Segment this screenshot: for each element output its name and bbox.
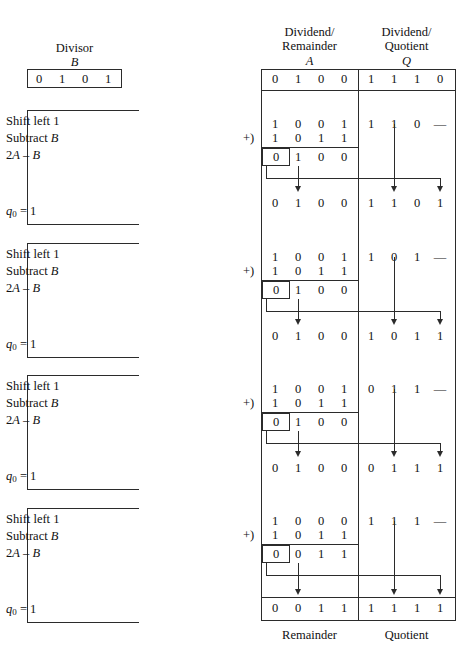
sum-a-bit: 1: [291, 150, 305, 164]
shifted-a-bit: 1: [268, 382, 282, 396]
step-line: 2A – B: [6, 546, 40, 560]
divisor-register: 0 1 0 1: [27, 69, 122, 88]
sum-a-bit: 0: [269, 547, 283, 561]
step-flag-subscript: 0: [12, 209, 17, 219]
step-flag: q0 = 1: [6, 337, 36, 354]
column-divider: [358, 69, 359, 621]
shifted-q-bit: 1: [410, 382, 424, 396]
remainder-footer: Remainder: [261, 628, 358, 642]
divisor-bit: 0: [33, 71, 45, 87]
sum-a-bit: 0: [314, 150, 328, 164]
divisor-bit: 1: [56, 71, 68, 87]
shifted-q-bit: —: [433, 382, 447, 396]
a-shift-arrow-line: [298, 166, 299, 187]
initial-a-bit: 0: [337, 72, 351, 86]
column-q-symbol: Q: [358, 54, 455, 68]
addend-bit: 1: [314, 528, 328, 542]
carry-arrow-head: [437, 451, 443, 457]
shifted-a-bit: 1: [268, 514, 282, 528]
final-remainder-bit: 1: [314, 601, 328, 615]
sum-a-bit: 1: [337, 547, 351, 561]
shifted-q-bit: —: [433, 117, 447, 131]
step-flag-value: 1: [30, 469, 36, 483]
shifted-a-bit: 0: [314, 382, 328, 396]
step-line: 2A – B: [6, 148, 40, 162]
carry-connector-vertical: [266, 166, 267, 178]
column-a-header-line2: Remainder: [261, 39, 358, 53]
initial-q-bit: 1: [387, 72, 401, 86]
carry-connector-vertical: [266, 299, 267, 311]
shifted-q-bit: 0: [364, 382, 378, 396]
shifted-q-bit: 0: [410, 117, 424, 131]
addend-bit: 1: [268, 264, 282, 278]
initial-q-bit: 1: [364, 72, 378, 86]
step-line: Shift left 1: [6, 512, 59, 526]
shifted-q-bit: 1: [364, 117, 378, 131]
addend-bit: 1: [337, 264, 351, 278]
step-line: Shift left 1: [6, 114, 59, 128]
sum-a-bit: 0: [314, 415, 328, 429]
column-a-symbol: A: [261, 54, 358, 68]
sum-a-bit: 0: [269, 283, 283, 297]
column-q-header-line1: Dividend/: [358, 25, 455, 39]
divisor-caption: Divisor: [27, 41, 122, 55]
result-a-bit: 1: [291, 461, 305, 475]
result-a-bit: 1: [291, 196, 305, 210]
quotient-footer: Quotient: [358, 628, 455, 642]
step-line: Shift left 1: [6, 247, 59, 261]
q-shift-arrow-line: [394, 521, 395, 590]
carry-connector-horizontal: [266, 575, 440, 576]
result-a-bit: 0: [337, 329, 351, 343]
plus-sign: +): [243, 528, 254, 542]
result-q-bit: 1: [364, 196, 378, 210]
addend-bit: 1: [268, 131, 282, 145]
addend-bit: 1: [337, 528, 351, 542]
carry-connector-horizontal: [266, 443, 440, 444]
shifted-a-bit: 0: [291, 250, 305, 264]
result-q-bit: 0: [364, 461, 378, 475]
step-line: 2A – B: [6, 281, 40, 295]
final-remainder-bit: 0: [268, 601, 282, 615]
initial-row-rule: [262, 90, 455, 91]
result-a-bit: 0: [337, 196, 351, 210]
a-shift-arrow-head: [295, 186, 301, 192]
sum-a-bit: 1: [314, 547, 328, 561]
carry-connector-drop: [440, 575, 441, 590]
result-a-bit: 0: [268, 329, 282, 343]
initial-q-bit: 1: [410, 72, 424, 86]
final-remainder-bit: 1: [337, 601, 351, 615]
shifted-a-bit: 0: [337, 514, 351, 528]
shifted-a-bit: 1: [337, 382, 351, 396]
q-shift-arrow-head: [391, 319, 397, 325]
result-a-bit: 0: [314, 461, 328, 475]
initial-a-bit: 0: [314, 72, 328, 86]
shifted-a-bit: 0: [314, 117, 328, 131]
q-shift-arrow-head: [391, 589, 397, 595]
carry-connector-horizontal: [266, 178, 440, 179]
carry-arrow-head: [437, 186, 443, 192]
sum-a-bit: 1: [291, 415, 305, 429]
shifted-a-bit: 1: [337, 250, 351, 264]
step-line: Subtract B: [6, 264, 58, 278]
initial-a-bit: 0: [268, 72, 282, 86]
a-shift-arrow-head: [295, 589, 301, 595]
addend-bit: 1: [314, 131, 328, 145]
final-remainder-bit: 0: [291, 601, 305, 615]
shifted-a-bit: 0: [314, 250, 328, 264]
addend-bit: 1: [314, 264, 328, 278]
addend-bit: 0: [291, 131, 305, 145]
q-shift-arrow-head: [391, 451, 397, 457]
addend-bit: 0: [291, 264, 305, 278]
sum-a-bit: 0: [337, 283, 351, 297]
addend-bit: 0: [291, 528, 305, 542]
symbol-b: B: [51, 131, 59, 145]
shifted-q-bit: 1: [410, 250, 424, 264]
carry-connector-vertical: [266, 563, 267, 575]
result-a-bit: 1: [291, 329, 305, 343]
plus-sign: +): [243, 264, 254, 278]
step-flag: q0 = 1: [6, 602, 36, 619]
a-shift-arrow-line: [298, 299, 299, 320]
plus-sign: +): [243, 131, 254, 145]
final-quotient-bit: 1: [410, 601, 424, 615]
addend-bit: 0: [291, 396, 305, 410]
